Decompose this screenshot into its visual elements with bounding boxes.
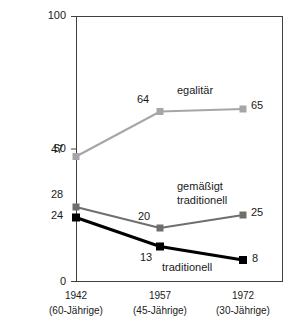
- series-traditionell: [72, 214, 247, 265]
- series-egalitaer-marker-1: [157, 108, 164, 115]
- data-label-egalitaer-1942: 47: [51, 144, 63, 155]
- series-traditionell-line: [76, 218, 243, 261]
- chart-page: 100 50 0 1942 (60-Jährige) 1957 (45-Jähr…: [0, 0, 294, 329]
- series-traditionell-marker-0: [72, 214, 80, 222]
- series-egalitaer-marker-0: [73, 153, 80, 160]
- data-label-gemaessigt-1942: 28: [51, 189, 63, 200]
- series-annotation-egalitaer: egalitär: [177, 84, 213, 96]
- data-label-traditionell-1957: 13: [140, 252, 152, 263]
- y-axis-ticks: [71, 17, 77, 282]
- plot-frame-rect: [77, 17, 283, 282]
- data-label-traditionell-1942: 24: [51, 210, 63, 221]
- series-annotation-gemaessigt-line2: traditionell: [177, 194, 227, 206]
- series-annotation-gemaessigt-line1: gemäßigt: [177, 180, 223, 192]
- series-gemaessigt-marker-1: [157, 225, 164, 232]
- series-egalitaer: [73, 106, 247, 161]
- series-traditionell-marker-2: [239, 256, 247, 264]
- series-gemaessigt-marker-0: [73, 204, 80, 211]
- data-label-egalitaer-1957: 64: [137, 94, 149, 105]
- series-gemaessigt-traditionell: [73, 204, 247, 232]
- series-annotation-traditionell: traditionell: [162, 261, 212, 273]
- data-label-gemaessigt-1972: 25: [251, 207, 263, 218]
- series-egalitaer-line: [76, 109, 243, 157]
- x-axis-label-1972-year: 1972: [193, 290, 293, 302]
- y-axis-label-100: 100: [4, 10, 66, 21]
- series-gemaessigt-marker-2: [240, 212, 247, 219]
- y-axis-label-0: 0: [4, 276, 66, 287]
- x-axis-label-1972-sub: (30-Jährige): [193, 305, 293, 317]
- data-label-egalitaer-1972: 65: [251, 100, 263, 111]
- series-traditionell-marker-1: [156, 243, 164, 251]
- plot-frame: [77, 17, 283, 282]
- data-label-gemaessigt-1957: 20: [138, 211, 150, 222]
- data-label-traditionell-1972: 8: [252, 253, 258, 264]
- series-egalitaer-marker-2: [240, 106, 247, 113]
